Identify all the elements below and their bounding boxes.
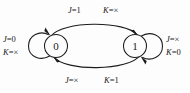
condition-right-k: K=0 [165, 47, 181, 57]
condition-bottom-k: K=1 [103, 75, 119, 85]
condition-bottom-k-val: =1 [110, 75, 119, 85]
condition-right-j: J=× [166, 34, 180, 44]
arc-top-path [51, 24, 138, 36]
condition-label-top: J=1 K=× [68, 5, 118, 15]
condition-left-j-val: =0 [7, 34, 16, 44]
condition-top-j-val: =1 [72, 5, 81, 15]
condition-left-j: J=0 [3, 34, 16, 44]
state-label-0: 0 [53, 40, 59, 52]
condition-top-j: J=1 [68, 5, 81, 15]
condition-top-k-val: =× [109, 5, 119, 15]
condition-left-k: K=× [2, 47, 18, 57]
transition-1-to-0 [52, 55, 140, 68]
condition-label-right: J=× K=0 [165, 34, 181, 57]
condition-right-k-val: =0 [172, 47, 181, 57]
state-node-1[interactable]: 1 [124, 35, 147, 58]
condition-left-k-val: =× [9, 47, 19, 57]
condition-label-bottom: J=× K=1 [65, 75, 119, 85]
transition-0-to-1 [51, 24, 139, 37]
diagram-canvas: 0 1 J=0 K=× J=1 K=× [0, 0, 190, 93]
condition-right-j-val: =× [170, 34, 180, 44]
condition-bottom-j-val: =× [69, 75, 79, 85]
condition-top-k: K=× [102, 5, 118, 15]
condition-bottom-j: J=× [65, 75, 79, 85]
state-label-1: 1 [132, 40, 138, 52]
arc-bottom-path [54, 55, 141, 68]
state-node-0[interactable]: 0 [45, 35, 68, 58]
state-transition-diagram: 0 1 J=0 K=× J=1 K=× [0, 0, 190, 93]
condition-label-left: J=0 K=× [2, 34, 18, 57]
